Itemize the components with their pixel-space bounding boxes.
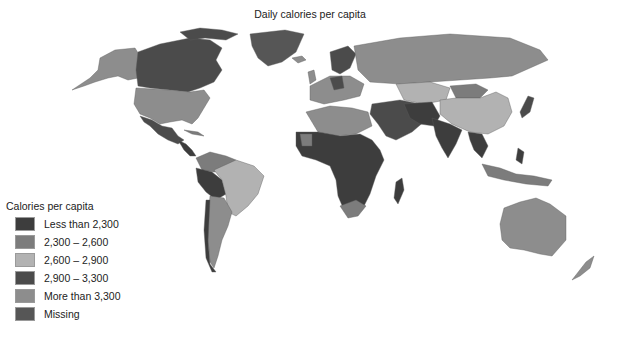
legend-swatch [15,217,35,231]
legend-label: 2,600 – 2,900 [44,254,108,266]
legend-swatch [15,307,35,321]
legend-label: 2,900 – 3,300 [44,272,108,284]
region-caribbean [184,130,204,136]
legend: Calories per capita Less than 2,300 2,30… [6,200,120,323]
region-australia [500,198,566,256]
region-north-africa [306,106,372,136]
region-iceland [292,56,306,63]
legend-item: Missing [6,305,120,323]
region-madagascar [394,178,404,204]
legend-swatch [15,235,35,249]
region-indonesia [482,164,552,186]
legend-swatch [15,253,35,267]
legend-item: 2,600 – 2,900 [6,251,120,269]
legend-item: 2,300 – 2,600 [6,233,120,251]
region-philippines [516,148,524,164]
legend-label: Less than 2,300 [44,218,119,230]
region-central-america [178,140,196,156]
region-alaska [72,48,140,90]
legend-label: Missing [44,308,80,320]
region-west-africa [300,134,312,146]
region-canada [136,38,222,92]
legend-item: 2,900 – 3,300 [6,269,120,287]
region-russia [354,34,548,84]
region-mongolia [450,84,488,98]
legend-item: Less than 2,300 [6,215,120,233]
region-japan [520,96,534,118]
legend-title: Calories per capita [6,200,120,212]
legend-swatch [15,271,35,285]
region-new-zealand [572,256,594,280]
region-arctic-islands [180,28,238,40]
region-southeast-asia [468,132,488,158]
legend-swatch [15,289,35,303]
region-scandinavia [330,46,356,74]
region-argentina [208,196,232,268]
legend-label: 2,300 – 2,600 [44,236,108,248]
region-uk [308,70,316,84]
legend-label: More than 3,300 [44,290,120,302]
legend-item: More than 3,300 [6,287,120,305]
